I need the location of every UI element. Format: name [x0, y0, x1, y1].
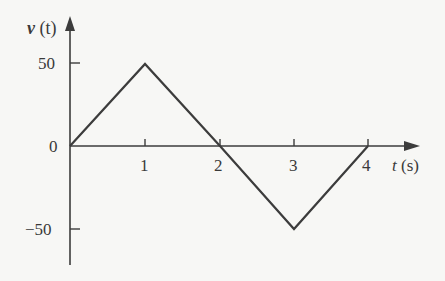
- y-axis-symbol: v: [27, 18, 35, 38]
- x-axis-unit: (s): [401, 156, 419, 175]
- chart-canvas: [0, 0, 445, 281]
- y-axis-arg: (t): [40, 18, 57, 38]
- x-axis-label: t (s): [392, 157, 419, 174]
- x-axis-symbol: t: [392, 156, 397, 175]
- x-tick-label-2: 2: [214, 157, 223, 174]
- y-tick-label-neg50: −50: [25, 221, 52, 238]
- y-axis-label: v (t): [27, 19, 57, 37]
- triangle-waveform-chart: v (t) 50 0 −50 1 2 3 4 t (s): [0, 0, 445, 281]
- x-tick-label-3: 3: [289, 157, 298, 174]
- y-tick-label-0: 0: [49, 138, 58, 155]
- x-axis-arrow-icon: [404, 141, 420, 151]
- y-tick-label-50: 50: [38, 55, 55, 72]
- x-tick-label-1: 1: [140, 157, 149, 174]
- x-tick-label-4: 4: [362, 157, 371, 174]
- y-axis-arrow-icon: [65, 16, 75, 31]
